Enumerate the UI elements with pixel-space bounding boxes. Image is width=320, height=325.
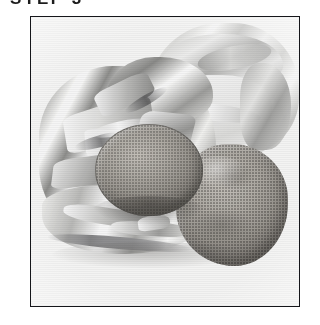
ground-shadow xyxy=(52,242,245,268)
photo-frame xyxy=(30,16,300,307)
potato-contact-shadow xyxy=(93,196,206,225)
foil-packet-edge xyxy=(240,63,291,150)
photo-image xyxy=(31,17,299,306)
page-root: STEP 3 xyxy=(0,0,320,325)
step-caption: STEP 3 xyxy=(10,0,84,9)
